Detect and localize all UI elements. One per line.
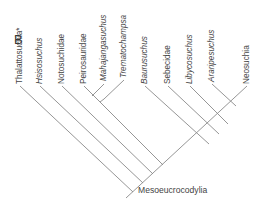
tip-labels: Thalattosuchia* Hsisosuchus Notosuchidae… <box>15 14 251 84</box>
tip-label: Trematochampsa <box>119 14 128 78</box>
tip-label: Libycosuchus <box>185 34 194 84</box>
root-label: Mesoeucrocodylia <box>138 185 207 195</box>
tip-label: Hsisosuchus <box>35 38 44 84</box>
tip-label: Mahajangasuchus <box>99 15 108 81</box>
tip-label: Araripesuchus <box>207 30 216 83</box>
tip-label: Notosuchidae <box>57 33 66 84</box>
branch-thalattosuchia <box>20 86 133 192</box>
branch-mahajangasuchus <box>92 84 104 96</box>
tip-label: Baurusuchus <box>140 36 149 84</box>
branch-peirosauridae <box>84 86 163 165</box>
branch-libycosuchus <box>190 86 228 124</box>
tip-label: Thalattosuchia* <box>15 27 24 84</box>
cladogram: Thalattosuchia* Hsisosuchus Notosuchidae… <box>0 0 264 206</box>
branch-notosuchidae <box>62 86 153 174</box>
tip-label: Sebecidae <box>163 45 172 84</box>
branch-hsisosuchus <box>40 86 143 183</box>
tip-label: Neosuchia <box>242 45 251 84</box>
branch-trematochampsa-clade-link <box>100 99 104 102</box>
branch-trematochampsa <box>104 80 124 99</box>
branch-sebecidae <box>168 86 219 134</box>
branch-araripesuchus <box>212 84 236 106</box>
tip-label: Peirosauridae <box>79 33 88 84</box>
